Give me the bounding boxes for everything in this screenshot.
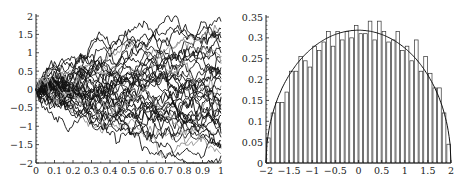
y-tick-label: 0.1	[248, 116, 263, 127]
histogram-bar	[368, 21, 372, 163]
y-tick-label: 0.3	[248, 32, 263, 43]
y-tick-label: 0.15	[242, 95, 263, 106]
histogram-bar	[313, 46, 317, 163]
figure: 00.10.20.30.40.50.60.70.80.91−2−1.5−1−0.…	[0, 0, 466, 191]
y-tick-label: 0	[257, 158, 263, 169]
histogram-bar	[382, 32, 386, 163]
y-tick-label: −0.5	[10, 102, 33, 113]
histogram-bar	[304, 61, 308, 163]
histogram-bar	[378, 21, 382, 163]
histogram-bar	[354, 25, 358, 163]
histogram-bar	[405, 46, 409, 163]
histogram-bars	[267, 21, 451, 163]
x-tick-label: 1	[402, 165, 408, 176]
sample-paths	[36, 16, 221, 163]
histogram-bar	[387, 42, 391, 163]
y-tick-label: 1	[27, 47, 33, 58]
histogram-bar	[428, 73, 432, 163]
histogram-bar	[299, 57, 303, 163]
histogram-bar	[433, 88, 437, 163]
y-tick-label: 0.05	[242, 137, 263, 148]
y-tick-label: 0.5	[18, 66, 33, 77]
histogram-bar	[322, 42, 326, 163]
y-tick-label: −1.5	[10, 139, 33, 150]
semicircle-density-curve	[266, 30, 451, 163]
x-tick-label: −1	[305, 165, 319, 176]
y-tick-label: 0.2	[248, 74, 263, 85]
histogram-bar	[341, 40, 345, 163]
histogram-bar	[359, 34, 363, 163]
histogram-bar	[373, 40, 377, 163]
histogram-bar	[336, 32, 340, 163]
y-tick-label: 0.25	[242, 53, 263, 64]
histogram-bar	[350, 38, 354, 163]
x-tick-label: 0.7	[158, 165, 173, 176]
histogram-bar	[442, 113, 446, 163]
y-tick-label: 2	[27, 11, 33, 22]
histogram-bar	[424, 57, 428, 163]
histogram-bar	[317, 50, 321, 163]
x-tick-label: 0	[355, 165, 361, 176]
brownian-paths-chart: 00.10.20.30.40.50.60.70.80.91−2−1.5−1−0.…	[10, 11, 224, 177]
x-tick-label: 0.5	[374, 165, 389, 176]
x-tick-label: 0.1	[47, 165, 62, 176]
histogram-bar	[308, 67, 312, 163]
histogram-bar	[401, 50, 405, 163]
x-tick-label: 0	[33, 165, 39, 176]
y-tick-label: 0.35	[242, 12, 263, 23]
x-tick-label: 0.4	[102, 165, 117, 176]
x-tick-label: 0.3	[84, 165, 99, 176]
x-tick-label: 0.8	[176, 165, 191, 176]
histogram-bar	[345, 32, 349, 163]
histogram-bar	[280, 103, 284, 163]
x-tick-label: 0.9	[195, 165, 210, 176]
y-tick-label: −2	[19, 158, 33, 169]
y-tick-label: 1.5	[18, 29, 33, 40]
x-tick-label: −1.5	[278, 165, 301, 176]
histogram-bar	[294, 71, 298, 163]
x-tick-label: 0.6	[139, 165, 154, 176]
histogram-bar	[285, 92, 289, 163]
histogram-bar	[276, 103, 280, 163]
histogram-bar	[364, 34, 368, 163]
histogram-bar	[271, 113, 275, 163]
histogram-bar	[290, 71, 294, 163]
histogram-chart: −2−1.5−1−0.500.511.5200.050.10.150.20.25…	[242, 12, 454, 177]
x-tick-label: 1.5	[420, 165, 435, 176]
x-tick-label: 0.5	[121, 165, 136, 176]
x-tick-label: 1	[218, 165, 224, 176]
y-tick-label: 0	[27, 84, 33, 95]
histogram-bar	[331, 46, 335, 163]
histogram-bar	[396, 32, 400, 163]
histogram-bar	[327, 32, 331, 163]
x-tick-label: 0.2	[65, 165, 80, 176]
histogram-bar	[419, 71, 423, 163]
y-tick-label: −1	[19, 121, 33, 132]
histogram-bar	[391, 40, 395, 163]
histogram-bar	[410, 61, 414, 163]
x-tick-label: −0.5	[324, 165, 347, 176]
x-tick-label: 2	[448, 165, 454, 176]
